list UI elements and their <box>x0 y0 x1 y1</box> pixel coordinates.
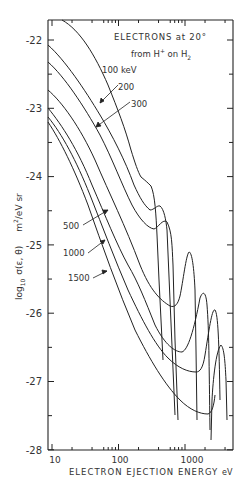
x-tick-label: 100 <box>111 455 128 465</box>
x-tick-label: 1000 <box>181 455 204 465</box>
label-1500-kev: 1500 <box>68 273 90 283</box>
x-axis-ticks <box>52 20 225 450</box>
label-1000-kev: 1000 <box>63 248 85 258</box>
label-100-kev: 100 keV <box>102 65 137 75</box>
label-300-kev: 300 <box>131 99 147 109</box>
x-tick-label: 10 <box>49 455 61 465</box>
y-axis-title: log10σ(ε, θ)m2/eV sr <box>12 193 26 300</box>
y-tick-label: -27 <box>26 376 42 387</box>
x-axis-title: ELECTRON EJECTION ENERGY <box>69 467 218 477</box>
y-axis-log-sub: 10 <box>19 278 26 286</box>
y-axis-log: log <box>14 286 24 300</box>
chart-title: ELECTRONS at 20° from H+ on H2 <box>114 32 207 61</box>
x-axis-unit: eV <box>222 468 233 477</box>
label-500-kev: 500 <box>63 221 79 231</box>
chart-figure: -22 -23 -24 -25 -26 -27 -28 10 100 1000 … <box>0 0 247 490</box>
y-axis-unit-m: m <box>14 223 24 232</box>
y-tick-label: -26 <box>26 308 42 319</box>
y-tick-label: -25 <box>26 240 42 251</box>
plot-frame <box>48 20 233 450</box>
y-tick-labels: -22 -23 -24 -25 -26 -27 -28 <box>26 35 42 456</box>
label-200-kev: 200 <box>118 82 134 92</box>
y-tick-label: -24 <box>26 171 42 182</box>
chart-title-line2: from H+ on H2 <box>131 47 191 61</box>
y-tick-label: -22 <box>26 35 42 46</box>
curve-300-kev <box>48 62 178 420</box>
curve-envelope-lowest <box>48 122 215 414</box>
svg-text:log10σ(ε, θ)m2/eV sr: log10σ(ε, θ)m2/eV sr <box>12 193 26 300</box>
chart-title-line1: ELECTRONS at 20° <box>114 32 207 42</box>
x-tick-labels: 10 100 1000 <box>49 455 203 465</box>
y-axis-sigma: σ(ε, θ) <box>14 246 24 275</box>
y-tick-label: -23 <box>26 103 42 114</box>
y-tick-label: -28 <box>26 445 42 456</box>
y-axis-unit-rest: /eV sr <box>14 193 24 219</box>
